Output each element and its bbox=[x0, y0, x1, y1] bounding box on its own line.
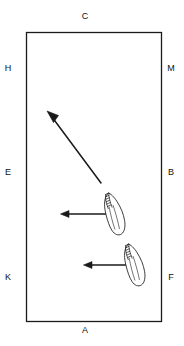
label-left-k: K bbox=[1, 273, 15, 282]
label-top-c: C bbox=[78, 12, 92, 21]
label-right-m: M bbox=[164, 64, 178, 73]
label-right-b: B bbox=[164, 168, 178, 177]
diagram-canvas: C H M E B K F A bbox=[0, 0, 184, 346]
diagonal-arrow bbox=[47, 111, 101, 183]
lower-leaf-outline bbox=[125, 244, 145, 286]
upper-leaf-outline bbox=[105, 193, 125, 235]
label-right-f: F bbox=[164, 273, 178, 282]
diagram-vector-layer bbox=[0, 0, 184, 346]
label-left-h: H bbox=[1, 64, 15, 73]
label-left-e: E bbox=[1, 168, 15, 177]
label-bottom-a: A bbox=[78, 326, 92, 335]
